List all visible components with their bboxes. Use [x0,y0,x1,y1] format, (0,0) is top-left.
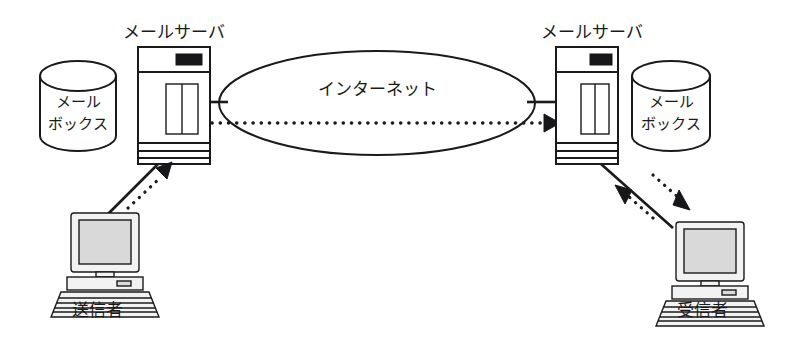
left-mailbox-node[interactable]: メール ボックス [40,61,116,151]
right-server-to-receiver-dotted-link [653,175,679,198]
cloud-label: インターネット [318,80,437,99]
right-server-label: メールサーバ [541,23,643,42]
receiver-label: 受信者 [677,301,728,320]
server-to-receiver-arrowhead-icon [673,190,690,210]
right-server-node[interactable] [556,47,618,164]
computer-base-slot [117,281,131,286]
left-server-label: メールサーバ [123,23,225,42]
database-cylinder-top-icon [632,61,710,91]
right-mailbox-label-line2: ボックス [641,115,701,132]
sender-label: 送信者 [72,301,123,320]
left-mailbox-label-line1: メール [56,93,101,110]
server-led-panel-icon [176,54,202,65]
server-led-panel-icon [590,54,612,65]
sender-to-left-server-dotted-link [128,178,160,208]
left-server-node[interactable] [138,47,210,164]
email-flow-diagram: メール ボックス メールサーバ インターネット [0,0,788,337]
monitor-screen [684,229,736,273]
internet-cloud-node[interactable]: インターネット [219,51,535,155]
right-mailbox-node[interactable]: メール ボックス [632,61,710,151]
monitor-screen [79,220,131,264]
left-mailbox-label-line2: ボックス [48,115,108,132]
right-server-to-receiver-solid-link [601,164,673,228]
database-cylinder-top-icon [40,61,116,91]
internet-ellipse-icon [219,51,535,155]
monitor-neck [701,281,719,286]
computer-base-slot [722,290,736,295]
diagram-canvas: メール ボックス メールサーバ インターネット [0,0,788,337]
right-mailbox-label-line1: メール [649,93,694,110]
monitor-neck [96,272,114,277]
